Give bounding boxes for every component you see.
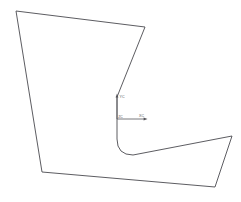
xc-axis-label: XC [139, 114, 144, 118]
sketch-viewport: YC XC ZC [0, 0, 241, 202]
yc-axis-label: YC [120, 95, 125, 99]
zc-origin-label: ZC [118, 115, 123, 119]
sketch-canvas: YC XC ZC [0, 0, 241, 202]
profile-outline[interactable] [16, 11, 232, 187]
